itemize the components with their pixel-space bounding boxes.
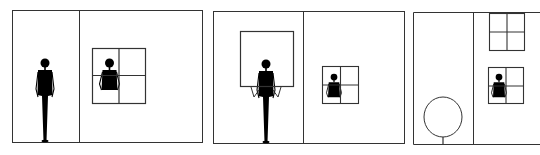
small-window-with-figure xyxy=(323,67,359,104)
figure-in-window-icon xyxy=(100,59,120,91)
panel-2 xyxy=(214,12,405,144)
panel-1 xyxy=(13,11,203,143)
tree-icon xyxy=(424,97,462,145)
panel-3 xyxy=(414,13,540,145)
figure-in-window-icon xyxy=(492,74,507,98)
person-holding-frame-icon xyxy=(257,60,275,144)
lower-window-with-figure xyxy=(489,68,524,104)
window-with-figure xyxy=(93,49,146,104)
person-standing-icon xyxy=(36,59,54,143)
three-panel-diagram xyxy=(0,0,540,155)
upper-window xyxy=(490,14,525,51)
